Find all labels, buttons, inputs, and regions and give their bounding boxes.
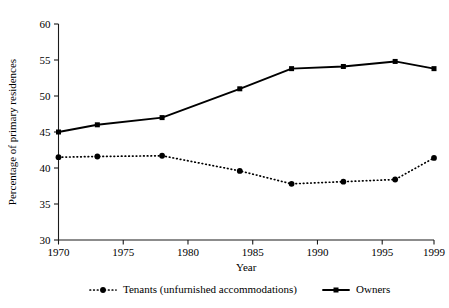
y-tick-label: 45: [40, 126, 52, 138]
chart-legend: Tenants (unfurnished accommodations)Owne…: [90, 283, 390, 296]
x-tick-label: 1985: [242, 246, 265, 258]
y-tick-label: 40: [40, 162, 52, 174]
legend-marker-2: [334, 288, 339, 293]
y-tick-label: 30: [40, 234, 52, 246]
data-point-marker: [160, 115, 165, 120]
data-series: [56, 59, 437, 187]
series-line-1: [59, 156, 435, 184]
data-point-marker: [289, 66, 294, 71]
series-line-2: [59, 61, 435, 132]
y-tick-label: 55: [40, 54, 52, 66]
line-chart: 30354045505560 1970197519801985199019951…: [0, 0, 449, 308]
data-point-marker: [432, 66, 437, 71]
y-tick-label: 50: [40, 90, 52, 102]
data-point-marker: [393, 59, 398, 64]
data-point-marker: [237, 168, 243, 174]
data-point-marker: [340, 179, 346, 185]
y-tick-label: 60: [40, 18, 52, 30]
y-axis-title: Percentage of primary residences: [6, 59, 18, 205]
x-tick-label: 1999: [423, 246, 446, 258]
x-tick-label: 1975: [112, 246, 135, 258]
x-tick-label: 1990: [306, 246, 329, 258]
data-point-marker: [289, 181, 295, 187]
legend-label-1: Tenants (unfurnished accommodations): [123, 283, 297, 296]
y-axis: 30354045505560: [40, 18, 59, 246]
data-point-marker: [159, 153, 165, 159]
x-tick-label: 1970: [48, 246, 71, 258]
legend-marker-1: [100, 287, 106, 293]
data-point-marker: [431, 155, 437, 161]
data-point-marker: [392, 177, 398, 183]
x-axis: 1970197519801985199019951999: [48, 240, 446, 258]
data-point-marker: [56, 154, 62, 160]
data-point-marker: [94, 154, 100, 160]
chart-figure: 30354045505560 1970197519801985199019951…: [0, 0, 449, 308]
legend-label-2: Owners: [356, 283, 390, 295]
x-tick-label: 1980: [177, 246, 200, 258]
x-tick-label: 1995: [371, 246, 394, 258]
data-point-marker: [237, 86, 242, 91]
data-point-marker: [95, 122, 100, 127]
x-axis-title: Year: [236, 261, 257, 273]
data-point-marker: [56, 130, 61, 135]
data-point-marker: [341, 64, 346, 69]
y-tick-label: 35: [40, 198, 52, 210]
